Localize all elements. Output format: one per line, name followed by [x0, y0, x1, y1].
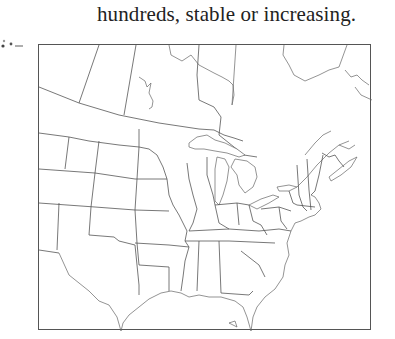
new-england-coast — [295, 195, 321, 223]
gulf-coast — [171, 291, 251, 331]
border-canada-us — [39, 87, 214, 130]
north-america-outline-map — [39, 45, 372, 331]
range-map — [38, 44, 371, 330]
lake-huron — [231, 159, 257, 193]
hudson-bay-coast — [169, 45, 236, 105]
nova-scotia-coast — [329, 157, 357, 181]
edge-marks-decoration — [0, 38, 30, 52]
texas-border — [59, 253, 121, 331]
lake-erie — [249, 195, 279, 209]
lake-ontario — [277, 185, 297, 191]
atlantic-coast — [251, 223, 295, 331]
caption-text: hundreds, stable or increasing. — [97, 2, 356, 27]
lake-superior — [189, 135, 245, 157]
lake-michigan — [215, 157, 229, 205]
